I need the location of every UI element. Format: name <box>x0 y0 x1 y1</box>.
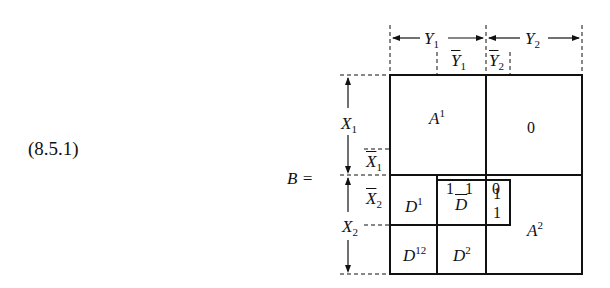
block-D2: D2 <box>453 245 471 264</box>
block-A2: A2 <box>527 220 543 239</box>
label-Y1-bar: Y1 <box>451 52 466 72</box>
label-X1: X1 <box>341 115 357 135</box>
inner-entry-2: 1 <box>465 181 473 197</box>
inner-col-entry-1: 1 <box>493 186 501 202</box>
label-Y1: Y1 <box>424 30 439 50</box>
block-D12: D12 <box>403 245 426 264</box>
block-A1: A1 <box>429 108 445 127</box>
block-diagram <box>0 0 610 288</box>
block-zero: 0 <box>527 120 535 136</box>
label-X1-bar: X1 <box>366 153 382 173</box>
block-D1: D1 <box>405 196 423 215</box>
label-X2: X2 <box>342 218 358 238</box>
label-X2-bar: X2 <box>366 190 382 210</box>
inner-col-entry-2: 1 <box>493 205 501 221</box>
block-D-bar: D <box>455 196 467 213</box>
inner-entry-1: 1 <box>446 181 454 197</box>
label-Y2: Y2 <box>525 30 540 50</box>
label-Y2-bar: Y2 <box>489 52 504 72</box>
